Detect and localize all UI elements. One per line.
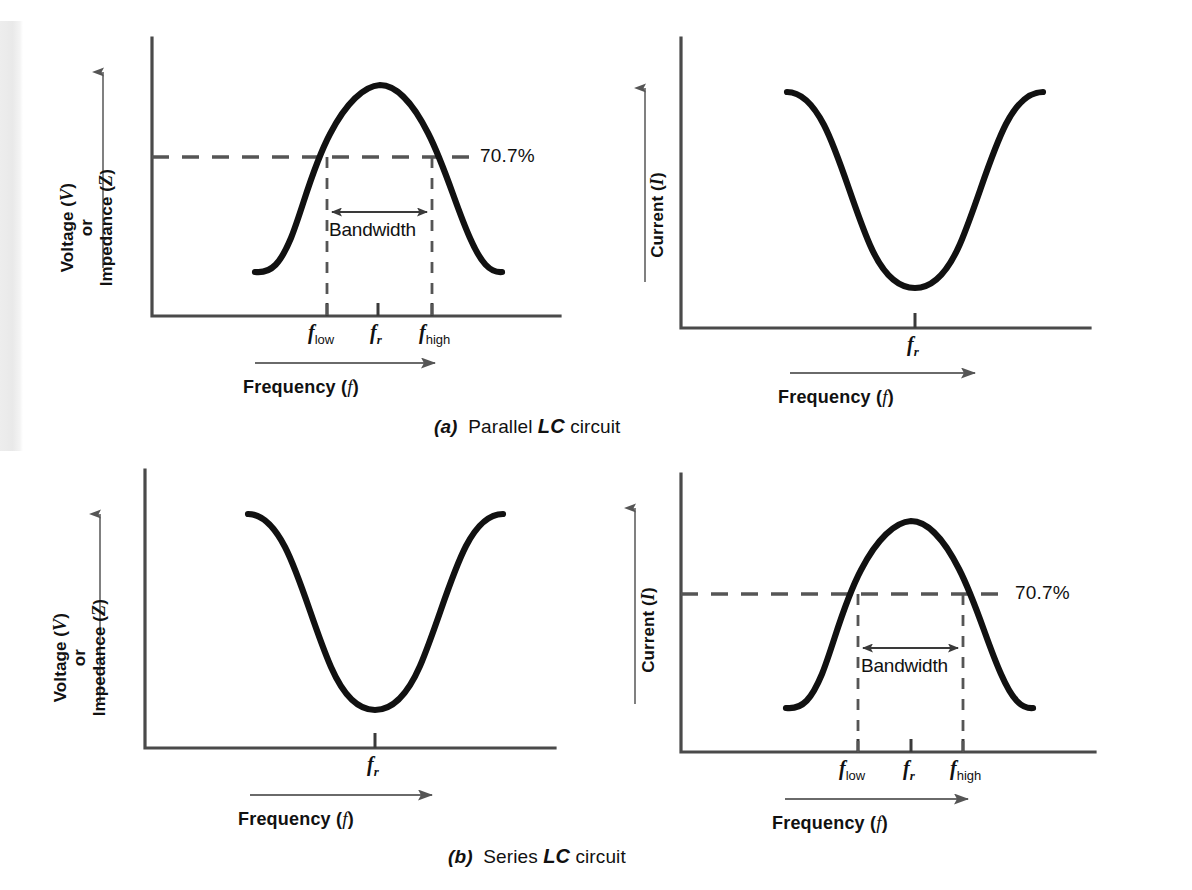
panel-b-right-tick-label-f-high: fhigh: [950, 757, 981, 784]
y-label-line-2: or: [70, 563, 89, 753]
caption-a: (a) Parallel LC circuit: [434, 415, 620, 437]
panel-a-left-ticks: [327, 303, 432, 316]
y-label-line-1: Voltage (V): [50, 563, 70, 753]
y-label-line-1: Current (I): [647, 120, 667, 310]
response-curve-valley: [248, 514, 503, 710]
panel-b-right-tick-label-f-low: flow: [839, 757, 865, 784]
y-label-line-3: Impedance (Z): [97, 133, 117, 323]
y-label-line-3: Impedance (Z): [90, 563, 110, 753]
response-curve-peak: [255, 85, 502, 272]
response-curve-valley: [787, 92, 1043, 288]
y-label-line-1: Current (I): [638, 535, 658, 725]
panel-b-left-x-axis-label: Frequency (f): [238, 808, 354, 829]
y-label-line-1: Voltage (V): [57, 133, 77, 323]
response-curve-peak: [786, 521, 1033, 708]
panel-a-right-tick-label-f-r: fr: [907, 333, 919, 360]
resonance-figure: Voltage (V) or Impedance (Z) 70.7% Bandw…: [0, 0, 1192, 890]
panel-b-left-tick-label-f-r: fr: [367, 753, 379, 780]
panel-a-right-x-axis-label: Frequency (f): [778, 386, 894, 407]
y-label-line-2: or: [77, 133, 96, 323]
panel-a-left-percent-label: 70.7%: [480, 145, 535, 166]
axis-lines: [145, 470, 555, 748]
panel-b-right-percent-label: 70.7%: [1015, 582, 1070, 603]
panel-b-right-bandwidth-label: Bandwidth: [861, 655, 948, 676]
panel-a-left-tick-label-f-high: fhigh: [419, 321, 450, 348]
panel-b-left-y-axis-label: Voltage (V) or Impedance (Z): [50, 563, 109, 753]
panel-a-left-bandwidth-label: Bandwidth: [329, 219, 416, 240]
panel-a-left-tick-label-f-r: fr: [370, 321, 382, 348]
panel-a-left-tick-label-f-low: flow: [308, 321, 334, 348]
caption-b: (b) Series LC circuit: [448, 845, 626, 867]
panel-a-left-x-axis-label: Frequency (f): [243, 376, 359, 397]
axis-lines: [681, 38, 1090, 328]
panel-a-left-axes: [103, 38, 560, 363]
panel-a-right-axes: [645, 38, 1090, 373]
panel-a-right-y-axis-label: Current (I): [647, 120, 667, 310]
panel-b-right-ticks: [858, 739, 963, 752]
panel-b-right-axes: [635, 474, 1095, 799]
panel-b-right-tick-label-f-r: fr: [903, 757, 915, 784]
panel-a-left-y-axis-label: Voltage (V) or Impedance (Z): [57, 133, 116, 323]
panel-b-right-y-axis-label: Current (I): [638, 535, 658, 725]
panel-b-right-x-axis-label: Frequency (f): [772, 812, 888, 833]
figure-vector-layer: [0, 0, 1192, 890]
